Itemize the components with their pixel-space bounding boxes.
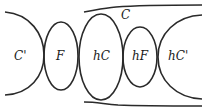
label-hc: hC xyxy=(93,49,110,63)
label-c-prime-left: C' xyxy=(14,49,26,63)
label-f: F xyxy=(55,49,65,63)
label-hc-prime: hC' xyxy=(168,49,188,63)
c-band-top-curve xyxy=(84,5,202,12)
c-band-bottom-curve xyxy=(84,102,202,106)
label-hf: hF xyxy=(132,49,149,63)
label-c-top: C xyxy=(121,8,130,22)
region-diagram: C' F C hC hF hC' xyxy=(0,0,207,109)
